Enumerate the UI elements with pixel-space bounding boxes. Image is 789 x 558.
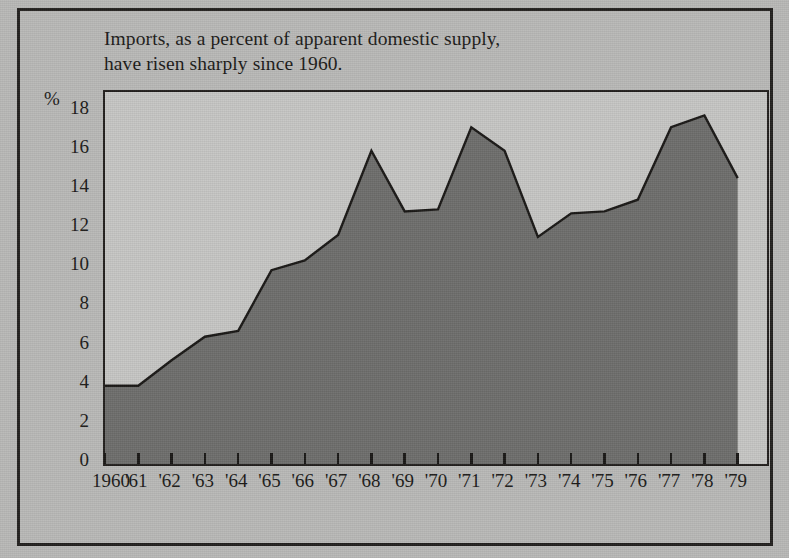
x-tick-1963 (204, 453, 207, 464)
x-tick-1960 (104, 453, 107, 464)
x-tick-1973 (537, 453, 540, 464)
x-axis-label-1979: '79 (721, 470, 751, 492)
x-tick-1977 (670, 453, 673, 464)
x-tick-1965 (270, 453, 273, 464)
x-tick-1976 (637, 453, 640, 464)
x-tick-1961 (137, 453, 140, 464)
x-axis-label-1965: '65 (254, 470, 284, 492)
x-axis-label-1974: '74 (554, 470, 584, 492)
x-tick-1979 (736, 453, 739, 464)
chart-page: Imports, as a percent of apparent domest… (0, 0, 789, 558)
x-axis-label-1976: '76 (621, 470, 651, 492)
x-tick-1968 (370, 453, 373, 464)
x-axis-label-1962: '62 (155, 470, 185, 492)
chart-title-line-1: Imports, as a percent of apparent domest… (104, 28, 500, 49)
y-axis-label-14: 14 (47, 175, 89, 197)
x-tick-1967 (337, 453, 340, 464)
x-axis-label-1969: '69 (388, 470, 418, 492)
area-chart-svg (105, 92, 767, 464)
chart-title: Imports, as a percent of apparent domest… (104, 26, 724, 76)
x-tick-1969 (403, 453, 406, 464)
x-tick-1974 (570, 453, 573, 464)
y-axis-label-18: 18 (47, 97, 89, 119)
y-axis-label-10: 10 (47, 253, 89, 275)
x-axis-label-1973: '73 (521, 470, 551, 492)
x-axis-label-1967: '67 (321, 470, 351, 492)
x-tick-1970 (437, 453, 440, 464)
x-axis-label-1966: '66 (288, 470, 318, 492)
y-axis-label-8: 8 (47, 292, 89, 314)
area-series-fill (105, 115, 738, 464)
x-axis-label-1963: '63 (188, 470, 218, 492)
x-axis-label-1977: '77 (654, 470, 684, 492)
x-axis-label-1972: '72 (488, 470, 518, 492)
x-axis-label-1961: '61 (121, 470, 151, 492)
plot-area (103, 90, 769, 466)
x-tick-1978 (703, 453, 706, 464)
x-axis-label-1970: '70 (421, 470, 451, 492)
x-tick-1962 (170, 453, 173, 464)
chart-title-line-2: have risen sharply since 1960. (104, 51, 724, 76)
x-tick-1975 (603, 453, 606, 464)
y-axis-label-12: 12 (47, 214, 89, 236)
x-tick-1964 (237, 453, 240, 464)
x-axis-label-1978: '78 (687, 470, 717, 492)
x-axis-label-1971: '71 (454, 470, 484, 492)
x-axis-label-1964: '64 (221, 470, 251, 492)
x-tick-1971 (470, 453, 473, 464)
y-axis-label-4: 4 (47, 371, 89, 393)
y-axis-label-2: 2 (47, 410, 89, 432)
y-axis-label-6: 6 (47, 332, 89, 354)
x-axis-label-1968: '68 (354, 470, 384, 492)
x-axis-label-1975: '75 (587, 470, 617, 492)
x-tick-1966 (304, 453, 307, 464)
y-axis-label-16: 16 (47, 136, 89, 158)
y-axis-label-0: 0 (47, 449, 89, 471)
x-tick-1972 (503, 453, 506, 464)
